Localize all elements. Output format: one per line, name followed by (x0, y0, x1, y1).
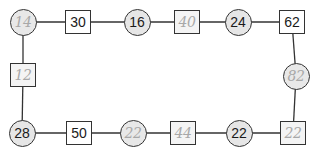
node-value: 50 (71, 125, 87, 141)
connector-lines (0, 0, 318, 158)
node-value: 16 (129, 14, 145, 30)
circle-node-top-3: 16 (124, 9, 151, 36)
square-node-left-middle: 12 (10, 63, 36, 87)
node-value: 40 (179, 14, 196, 30)
square-node-top-right: 62 (279, 10, 305, 34)
node-value: 82 (288, 68, 305, 84)
circle-node-bottom-3: 22 (120, 120, 147, 147)
node-value: 14 (15, 14, 32, 30)
node-value: 22 (125, 125, 142, 141)
node-value: 62 (284, 14, 300, 30)
node-value: 22 (285, 125, 302, 141)
circle-node-top-left: 14 (10, 9, 37, 36)
number-loop-diagram: 14 30 16 40 24 62 82 22 22 44 22 50 28 1… (0, 0, 318, 158)
square-node-bottom-2: 50 (66, 121, 92, 145)
circle-node-bottom-5: 22 (226, 120, 253, 147)
node-value: 24 (230, 14, 246, 30)
square-node-bottom-4: 44 (170, 121, 196, 145)
node-value: 12 (15, 67, 32, 83)
square-node-bottom-right: 22 (280, 121, 306, 145)
node-value: 44 (175, 125, 192, 141)
circle-node-top-5: 24 (225, 9, 252, 36)
circle-node-right-middle: 82 (283, 63, 310, 90)
square-node-top-4: 40 (174, 10, 200, 34)
square-node-top-2: 30 (65, 10, 91, 34)
circle-node-bottom-left: 28 (9, 120, 36, 147)
node-value: 28 (14, 125, 30, 141)
node-value: 30 (70, 14, 86, 30)
node-value: 22 (231, 125, 247, 141)
